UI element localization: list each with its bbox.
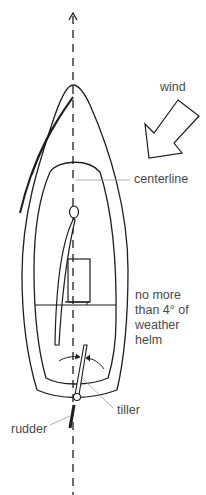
helm-note-line-2: than 4° of	[135, 303, 189, 318]
helm-note-line-1: no more	[135, 288, 181, 303]
rudder-label: rudder	[11, 422, 47, 437]
centerline-label: centerline	[134, 172, 188, 187]
wind-arrow-icon	[145, 100, 199, 158]
hull-outline	[22, 85, 128, 398]
cockpit-outline	[34, 162, 116, 384]
rudder-leader	[50, 416, 70, 425]
mast	[70, 206, 79, 218]
helm-note-line-3: weather	[135, 318, 179, 333]
rudder-post	[74, 394, 81, 401]
tiller	[75, 345, 87, 395]
tiller-label: tiller	[117, 403, 140, 418]
wind-label: wind	[160, 80, 186, 95]
sailboat-diagram	[0, 0, 206, 495]
mainsail	[55, 218, 75, 345]
sail-curve	[20, 97, 73, 213]
helm-note-line-4: helm	[135, 333, 162, 348]
cabin-box	[68, 259, 90, 302]
